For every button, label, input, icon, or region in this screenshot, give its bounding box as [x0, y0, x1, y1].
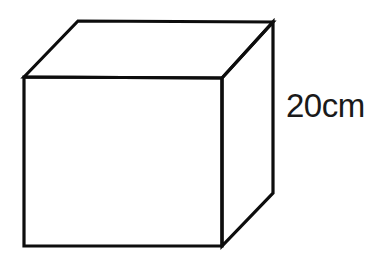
cube-front-face: [24, 77, 222, 246]
height-dimension-label: 20cm: [286, 88, 365, 124]
cube-illustration: [0, 0, 382, 261]
cube-diagram: 20cm: [0, 0, 382, 261]
